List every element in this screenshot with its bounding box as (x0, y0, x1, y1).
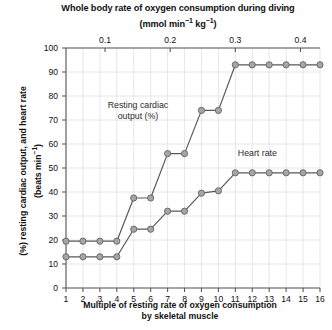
secondary-axis-title-line1: Whole body rate of oxygen consumption du… (28, 3, 328, 15)
y-axis-title-line2: (beats min−1) (29, 61, 44, 281)
data-point (181, 208, 187, 214)
data-point (266, 170, 272, 176)
data-point (131, 195, 137, 201)
x-axis-title-line1: Multiple of resting rate of oxygen consu… (30, 300, 330, 311)
data-point (266, 62, 272, 68)
data-point (165, 151, 171, 157)
data-point (215, 188, 221, 194)
x-axis-title-line2: by skeletal muscle (30, 311, 330, 322)
data-point (148, 195, 154, 201)
data-point (300, 62, 306, 68)
data-point (148, 226, 154, 232)
data-point (249, 170, 255, 176)
data-point (300, 170, 306, 176)
data-point (198, 107, 204, 113)
secondary-axis-title-line2: (mmol min−1 kg−1) (28, 15, 328, 31)
data-point (181, 151, 187, 157)
y-axis-ticks (62, 48, 66, 288)
data-series (63, 62, 323, 245)
data-point (283, 62, 289, 68)
secondary-axis-title: Whole body rate of oxygen consumption du… (28, 3, 328, 30)
grid-lines (66, 48, 320, 288)
secondary-x-axis-ticks (105, 48, 300, 52)
data-point (232, 62, 238, 68)
data-point (80, 254, 86, 260)
data-point (114, 238, 120, 244)
data-point (80, 238, 86, 244)
plot-canvas (0, 0, 332, 330)
data-point (97, 238, 103, 244)
data-point (165, 208, 171, 214)
data-point (249, 62, 255, 68)
data-point (232, 170, 238, 176)
data-point (198, 190, 204, 196)
y-axis-title: (%) resting cardiac output, and heart ra… (18, 61, 44, 281)
data-point (63, 254, 69, 260)
y-axis-title-line1: (%) resting cardiac output, and heart ra… (18, 61, 29, 281)
data-point (97, 254, 103, 260)
data-point (63, 238, 69, 244)
data-point (215, 107, 221, 113)
data-point (283, 170, 289, 176)
x-axis-ticks (66, 288, 320, 292)
data-point (131, 226, 137, 232)
chart-figure: Whole body rate of oxygen consumption du… (0, 0, 332, 330)
data-series (63, 170, 323, 260)
data-point (317, 170, 323, 176)
x-axis-title: Multiple of resting rate of oxygen consu… (30, 300, 330, 322)
data-point (317, 62, 323, 68)
data-point (114, 254, 120, 260)
